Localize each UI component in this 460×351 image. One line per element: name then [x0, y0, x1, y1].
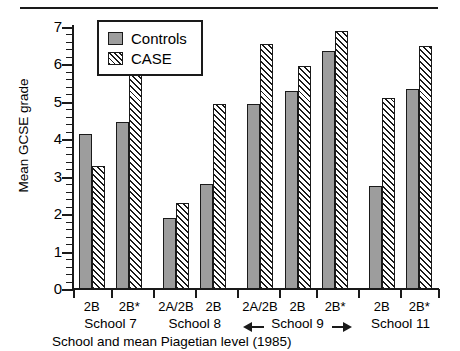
- bar-controls: [116, 122, 129, 289]
- y-tick-major: [62, 214, 73, 216]
- bar-case: [260, 44, 273, 289]
- legend-label-controls: Controls: [131, 31, 187, 46]
- x-tick: [400, 289, 402, 298]
- y-tick-minor: [66, 274, 73, 275]
- y-tick-minor: [66, 34, 73, 35]
- bar-case: [129, 74, 142, 289]
- y-tick-minor: [66, 124, 73, 125]
- x-tick: [153, 289, 155, 298]
- bar-case: [335, 31, 348, 289]
- y-tick-major: [62, 102, 73, 104]
- bar-controls: [406, 89, 419, 289]
- y-tick-minor: [66, 162, 73, 163]
- y-tick-minor: [66, 117, 73, 118]
- solid-grey-square-icon: [108, 32, 123, 45]
- legend-entry-case: CASE: [108, 48, 187, 68]
- group-label: School 9: [271, 316, 324, 331]
- hatched-square-icon: [108, 52, 123, 65]
- bar-case: [419, 46, 432, 289]
- bar-controls: [247, 104, 260, 289]
- y-tick-label: 7: [18, 19, 62, 34]
- y-tick-minor: [66, 282, 73, 283]
- x-tick: [316, 289, 318, 298]
- bar-case: [298, 66, 311, 289]
- y-tick-label: 0: [18, 281, 62, 296]
- x-tick-label: 2B*: [119, 299, 140, 314]
- bar-case: [213, 104, 226, 289]
- bar-controls: [163, 218, 176, 289]
- y-tick-major: [62, 289, 73, 291]
- x-tick-label: 2B: [205, 299, 221, 314]
- y-tick-minor: [66, 267, 73, 268]
- bar-case: [176, 203, 189, 289]
- x-tick: [111, 289, 113, 298]
- group-label: School 11: [371, 316, 430, 331]
- bar-case: [382, 98, 395, 289]
- group-label: School 8: [168, 316, 221, 331]
- y-tick-minor: [66, 49, 73, 50]
- y-tick-minor: [66, 237, 73, 238]
- bar-controls: [369, 186, 382, 289]
- y-tick-minor: [66, 169, 73, 170]
- chart-legend: Controls CASE: [97, 20, 203, 76]
- y-tick-minor: [66, 87, 73, 88]
- y-tick-minor: [66, 132, 73, 133]
- bar-controls: [322, 51, 335, 289]
- y-tick-major: [62, 64, 73, 66]
- y-tick-minor: [66, 192, 73, 193]
- group-label: School 7: [84, 316, 137, 331]
- bar-controls: [285, 91, 298, 289]
- y-tick-minor: [66, 244, 73, 245]
- y-tick-minor: [66, 109, 73, 110]
- x-axis-title: School and mean Piagetian level (1985): [52, 334, 291, 349]
- y-tick-minor: [66, 154, 73, 155]
- x-tick: [279, 289, 281, 298]
- y-tick-label: 1: [18, 244, 62, 259]
- x-tick-label: 2B*: [409, 299, 430, 314]
- legend-label-case: CASE: [131, 51, 172, 66]
- x-tick: [73, 289, 75, 298]
- y-tick-minor: [66, 147, 73, 148]
- y-tick-minor: [66, 259, 73, 260]
- x-tick-label: 2A/2B: [242, 299, 277, 314]
- x-tick-label: 2B*: [325, 299, 346, 314]
- x-tick: [237, 289, 239, 298]
- y-tick-minor: [66, 42, 73, 43]
- range-arrow-left: [243, 322, 263, 332]
- x-tick-label: 2A/2B: [158, 299, 193, 314]
- y-tick-minor: [66, 207, 73, 208]
- x-tick-label: 2B: [84, 299, 100, 314]
- y-tick-minor: [66, 72, 73, 73]
- y-tick-major: [62, 27, 73, 29]
- range-arrow-right: [332, 322, 352, 332]
- x-tick: [358, 289, 360, 298]
- y-axis-title: Mean GCSE grade: [16, 61, 31, 211]
- x-tick-label: 2B: [290, 299, 306, 314]
- y-tick-major: [62, 252, 73, 254]
- x-tick-label: 2B: [374, 299, 390, 314]
- x-tick: [438, 289, 440, 298]
- bar-case: [92, 166, 105, 290]
- legend-entry-controls: Controls: [108, 28, 187, 48]
- bar-controls: [200, 184, 213, 289]
- y-tick-minor: [66, 57, 73, 58]
- y-tick-minor: [66, 229, 73, 230]
- bar-chart-figure: 01234567 Mean GCSE grade 2B2B*2A/2B2B2A/…: [0, 0, 460, 351]
- y-tick-major: [62, 177, 73, 179]
- y-tick-minor: [66, 94, 73, 95]
- y-tick-major: [62, 139, 73, 141]
- y-tick-minor: [66, 79, 73, 80]
- y-tick-minor: [66, 184, 73, 185]
- x-tick: [195, 289, 197, 298]
- bar-controls: [79, 134, 92, 289]
- y-tick-minor: [66, 222, 73, 223]
- y-tick-minor: [66, 199, 73, 200]
- top-horizontal-rule: [20, 7, 438, 9]
